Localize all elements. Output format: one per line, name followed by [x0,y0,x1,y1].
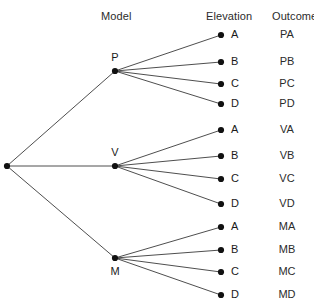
node-elevation-ma[interactable] [218,224,224,230]
outcome-label-vd: VD [279,197,294,209]
outcome-label-pb: PB [280,55,295,67]
node-label-elevation-pd: D [231,97,239,109]
node-elevation-vb[interactable] [218,153,224,159]
outcome-label-vb: VB [280,149,295,161]
node-label-model-v: V [103,146,127,158]
outcome-label-mc: MC [278,265,295,277]
node-elevation-mb[interactable] [218,247,224,253]
node-label-elevation-pa: A [231,28,238,40]
edge-vc [115,166,221,179]
node-label-model-p: P [103,51,127,63]
outcome-label-va: VA [280,123,294,135]
outcome-label-pc: PC [279,77,294,89]
outcome-label-vc: VC [279,172,294,184]
node-model-p[interactable] [112,68,118,74]
edge-vd [115,166,221,204]
node-label-elevation-pc: C [231,77,239,89]
node-label-model-m: M [103,265,127,277]
edge-pa [115,35,221,71]
edge-root-to-m [7,166,115,258]
node-label-elevation-vd: D [231,197,239,209]
node-label-elevation-pb: B [231,55,238,67]
outcome-label-pd: PD [279,97,294,109]
node-label-elevation-ma: A [231,220,238,232]
tree-diagram: Model Elevation Outcome PVMAPABPBCPCDPDA… [0,0,314,307]
node-label-elevation-mb: B [231,243,238,255]
node-elevation-vc[interactable] [218,176,224,182]
node-model-m[interactable] [112,255,118,261]
edge-pb [115,62,221,71]
edge-md [115,258,221,295]
outcome-label-pa: PA [280,28,294,40]
node-elevation-md[interactable] [218,292,224,298]
node-elevation-va[interactable] [218,127,224,133]
node-elevation-vd[interactable] [218,201,224,207]
node-root[interactable] [4,163,10,169]
node-label-elevation-mc: C [231,265,239,277]
edge-pc [115,71,221,84]
node-label-elevation-va: A [231,123,238,135]
tree-edges-and-nodes [0,0,314,307]
node-group [4,32,224,298]
node-elevation-pc[interactable] [218,81,224,87]
edge-root-to-p [7,71,115,166]
node-model-v[interactable] [112,163,118,169]
outcome-label-md: MD [278,288,295,300]
edge-mc [115,258,221,272]
node-elevation-pd[interactable] [218,101,224,107]
outcome-label-mb: MB [279,243,296,255]
node-elevation-mc[interactable] [218,269,224,275]
node-label-elevation-md: D [231,288,239,300]
outcome-label-ma: MA [279,220,296,232]
edge-pd [115,71,221,104]
node-elevation-pa[interactable] [218,32,224,38]
node-label-elevation-vc: C [231,172,239,184]
edge-mb [115,250,221,258]
node-elevation-pb[interactable] [218,59,224,65]
node-label-elevation-vb: B [231,149,238,161]
edge-ma [115,227,221,258]
